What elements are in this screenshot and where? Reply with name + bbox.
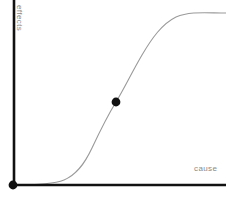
y-axis-label: effects: [15, 5, 24, 31]
inflection-point-dot: [112, 98, 121, 107]
x-axis-label: cause: [194, 164, 217, 173]
plot-canvas: [0, 0, 226, 197]
origin-dot: [9, 181, 18, 190]
sigmoid-curve: [14, 13, 226, 185]
sigmoid-chart-figure: effects cause: [0, 0, 226, 197]
